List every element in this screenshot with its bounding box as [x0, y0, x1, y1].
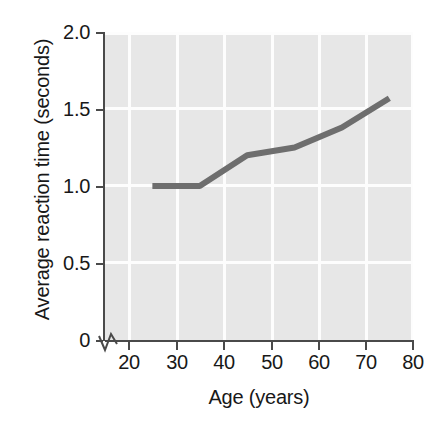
x-tick-mark-50 [271, 342, 273, 350]
x-tick-label-80: 80 [393, 351, 433, 374]
y-tick-mark-1.0 [96, 186, 103, 188]
y-tick-label-1.5: 1.5 [24, 98, 90, 121]
y-tick-label-2.0: 2.0 [24, 21, 90, 44]
x-tick-mark-40 [223, 342, 225, 350]
y-tick-mark-0.5 [96, 263, 103, 265]
y-tick-mark-2.0 [96, 32, 103, 34]
y-axis-line [103, 32, 105, 341]
x-tick-label-40: 40 [204, 351, 244, 374]
reaction-time-polyline [152, 98, 389, 186]
x-axis-title: Age (years) [105, 386, 413, 409]
y-tick-label-0.5: 0.5 [24, 252, 90, 275]
x-tick-mark-70 [365, 342, 367, 350]
x-tick-label-50: 50 [252, 351, 292, 374]
x-tick-label-30: 30 [157, 351, 197, 374]
y-tick-label-0: 0 [24, 329, 90, 352]
chart-figure: Average reaction time (seconds) 2.0 1.5 … [0, 0, 442, 428]
x-tick-mark-80 [412, 342, 414, 350]
x-tick-label-60: 60 [299, 351, 339, 374]
y-tick-label-1.0: 1.0 [24, 175, 90, 198]
x-tick-mark-60 [318, 342, 320, 350]
plot-area [105, 32, 413, 340]
x-axis-line [105, 340, 414, 342]
data-series-line [105, 32, 413, 340]
x-tick-label-70: 70 [346, 351, 386, 374]
x-tick-label-20: 20 [109, 351, 149, 374]
x-tick-mark-30 [176, 342, 178, 350]
y-tick-mark-1.5 [96, 109, 103, 111]
x-tick-mark-20 [128, 342, 130, 350]
